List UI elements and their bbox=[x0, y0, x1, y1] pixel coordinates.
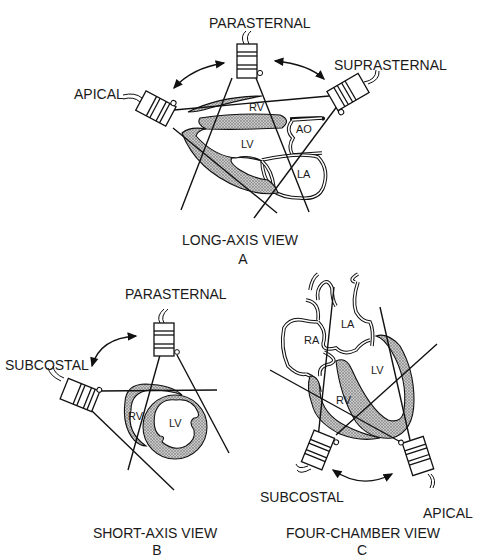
caption-letter-c: C bbox=[357, 542, 367, 558]
apical-cord bbox=[123, 94, 142, 102]
panel-four-chamber: LA RA LV RV SUBCOSTAL APICAL FOUR-CHAMBE… bbox=[260, 274, 473, 558]
label-ao: AO bbox=[296, 123, 312, 135]
label-apical-a: APICAL bbox=[74, 86, 124, 102]
label-ra-c: RA bbox=[304, 334, 320, 346]
label-suprasternal: SUPRASTERNAL bbox=[334, 57, 447, 73]
apical-probe bbox=[136, 87, 179, 126]
parasternal-probe-b bbox=[154, 309, 179, 356]
label-parasternal-a: PARASTERNAL bbox=[209, 15, 311, 31]
label-subcostal-c: SUBCOSTAL bbox=[260, 489, 344, 505]
subcostal-probe-b bbox=[60, 375, 102, 412]
label-rv-c: RV bbox=[336, 394, 352, 406]
subcostal-beam-b-top bbox=[99, 390, 217, 391]
rotate-arrow-left bbox=[174, 63, 224, 88]
label-subcostal-b: SUBCOSTAL bbox=[5, 357, 89, 373]
label-lv-c: LV bbox=[371, 364, 384, 376]
apical-cord-c bbox=[428, 474, 435, 488]
panel-short-axis: RV LV PARASTERNAL SUBCOSTAL SHORT-AXIS V… bbox=[5, 286, 229, 558]
label-la-c: LA bbox=[341, 318, 355, 330]
rotate-arrow-b bbox=[92, 336, 136, 366]
atrial-outlines bbox=[283, 274, 373, 392]
parasternal-probe bbox=[237, 31, 263, 78]
apical-probe-c bbox=[398, 433, 434, 476]
rotate-arrow-right bbox=[275, 61, 324, 79]
caption-long-axis: LONG-AXIS VIEW bbox=[182, 232, 299, 248]
caption-letter-a: A bbox=[238, 251, 248, 267]
suprasternal-probe bbox=[326, 73, 371, 115]
subcostal-probe-c bbox=[301, 430, 339, 472]
panel-long-axis: RV LV AO LA bbox=[74, 15, 447, 267]
label-lv: LV bbox=[241, 138, 254, 150]
caption-short-axis: SHORT-AXIS VIEW bbox=[93, 525, 218, 541]
caption-letter-b: B bbox=[152, 542, 161, 558]
label-apical-c: APICAL bbox=[423, 505, 473, 521]
label-parasternal-b: PARASTERNAL bbox=[125, 286, 227, 302]
label-lv-b: LV bbox=[169, 417, 182, 429]
label-la: LA bbox=[297, 168, 311, 180]
caption-four-chamber: FOUR-CHAMBER VIEW bbox=[286, 525, 441, 541]
lv-wall-four bbox=[336, 335, 414, 438]
rotate-arrow-c bbox=[333, 470, 392, 481]
echocardiography-views-diagram: RV LV AO LA bbox=[0, 0, 480, 560]
